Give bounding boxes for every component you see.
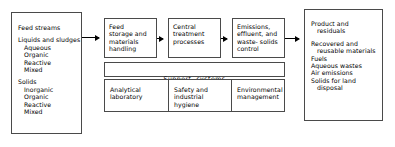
- feed-group-solids: Solids Inorganic Organic Reactive Mixed: [18, 78, 78, 115]
- feed-solid-organic: Organic: [18, 93, 78, 100]
- feed-group-solids-heading: Solids: [18, 78, 78, 85]
- process-group: Feed storage and materials handling Cent…: [104, 18, 285, 112]
- support-cell-safety-industrial-hygiene: Safety and industrial hygiene: [168, 80, 231, 111]
- feed-item-organic: Organic: [18, 51, 78, 58]
- support-cell-environmental-management: Environmental management: [231, 80, 286, 111]
- process-box-emissions-control-label: Emissions, effluent, and waste- solids c…: [237, 23, 282, 53]
- arrow-feed-to-storage-icon: [82, 37, 99, 38]
- support-cell-safety-industrial-hygiene-label: Safety and industrial hygiene: [174, 86, 229, 108]
- support-cell-analytical-laboratory-label: Analytical laboratory: [110, 86, 166, 101]
- feed-streams-title: Feed streams: [18, 24, 78, 31]
- process-box-central-treatment: Central treatment processes: [168, 18, 221, 58]
- process-box-central-treatment-label: Central treatment processes: [173, 23, 218, 45]
- arrow-emissions-to-product-icon: [285, 38, 299, 39]
- product-residuals-box: Product and residuals Recovered and reus…: [304, 9, 383, 121]
- feed-group-liquids: Liquids and sludges Aqueous Organic Reac…: [18, 36, 78, 73]
- feed-item-reactive: Reactive: [18, 59, 78, 66]
- product-item-air-emissions: Air emissions: [311, 69, 379, 76]
- process-box-feed-storage: Feed storage and materials handling: [104, 18, 157, 58]
- process-box-feed-storage-label: Feed storage and materials handling: [109, 23, 154, 53]
- support-cell-environmental-management-label: Environmental management: [237, 86, 284, 101]
- feed-group-liquids-heading: Liquids and sludges: [18, 36, 78, 43]
- feed-solid-reactive: Reactive: [18, 101, 78, 108]
- product-item-fuels: Fuels: [311, 55, 379, 62]
- arrow-storage-to-central-icon: [157, 38, 163, 39]
- support-systems-band: Support systems: [104, 62, 285, 77]
- support-cell-analytical-laboratory: Analytical laboratory: [105, 80, 168, 111]
- feed-item-mixed: Mixed: [18, 66, 78, 73]
- feed-solid-inorganic: Inorganic: [18, 86, 78, 93]
- support-systems-row: Analytical laboratory Safety and industr…: [104, 79, 285, 112]
- product-item-aqueous-wastes: Aqueous wastes: [311, 62, 379, 69]
- product-item-solids-land-disposal: Solids for land disposal: [311, 77, 379, 92]
- process-flow-diagram: Feed streams Liquids and sludges Aqueous…: [0, 0, 395, 147]
- product-item-recovered-materials: Recovered and reusable materials: [311, 40, 379, 55]
- feed-solid-mixed: Mixed: [18, 108, 78, 115]
- process-box-emissions-control: Emissions, effluent, and waste- solids c…: [232, 18, 285, 58]
- arrow-central-to-emissions-icon: [221, 38, 227, 39]
- feed-item-aqueous: Aqueous: [18, 44, 78, 51]
- product-residuals-title: Product and residuals: [311, 20, 379, 35]
- feed-streams-box: Feed streams Liquids and sludges Aqueous…: [11, 12, 82, 134]
